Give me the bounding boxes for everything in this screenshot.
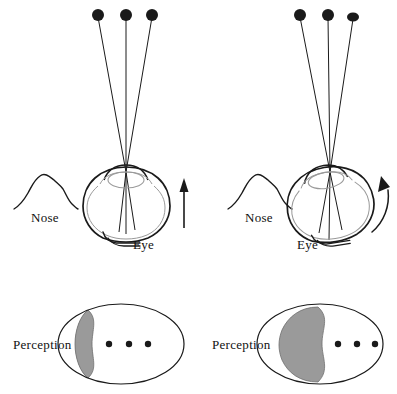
- perception-dot: [126, 341, 132, 347]
- nose-label-left: Nose: [31, 210, 59, 225]
- stimulus-dot: [120, 9, 132, 21]
- perception-label-right: Perception: [212, 337, 271, 352]
- figure-canvas: Nose Eye Perception: [0, 0, 397, 394]
- perception-dot: [335, 341, 341, 347]
- nose-label-right: Nose: [245, 210, 273, 225]
- perception-dot: [372, 341, 378, 347]
- perception-dot: [354, 341, 360, 347]
- stimulus-dot: [322, 9, 334, 21]
- stimulus-dots-left: [92, 9, 158, 21]
- perception-dot: [145, 341, 151, 347]
- stimulus-dot: [294, 9, 306, 21]
- eye-label-right: Eye: [297, 237, 318, 252]
- stimulus-dot: [92, 9, 104, 21]
- eye-perception-figure: Nose Eye Perception: [0, 0, 397, 394]
- stimulus-dot: [146, 9, 158, 21]
- perception-dot: [106, 341, 112, 347]
- stimulus-dot: [347, 12, 359, 21]
- perception-label-left: Perception: [13, 337, 72, 352]
- eye-label-left: Eye: [133, 237, 154, 252]
